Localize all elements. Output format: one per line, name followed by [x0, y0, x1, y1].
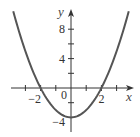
x-tick-label: −2: [28, 92, 41, 106]
axes: [11, 9, 134, 132]
origin-label: 0: [61, 88, 67, 102]
y-tick-label: 4: [59, 52, 65, 66]
y-tick-label: −4: [52, 115, 65, 129]
x-axis-label: x: [125, 89, 132, 104]
y-axis-label: y: [56, 4, 64, 19]
x-tick-label: 2: [98, 92, 104, 106]
tick-labels: −2284−4: [28, 22, 104, 129]
chart-canvas: −2284−4 x y 0: [0, 0, 140, 137]
y-tick-label: 8: [59, 22, 65, 36]
